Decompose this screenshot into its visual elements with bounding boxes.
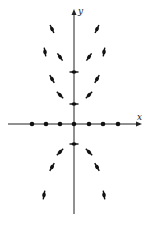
- slope-mark: [70, 142, 79, 146]
- slope-mark: [93, 74, 101, 84]
- x-axis-arrow-icon: [136, 122, 142, 127]
- slope-mark: [93, 162, 101, 172]
- equilibrium-point: [87, 122, 92, 127]
- direction-field-diagram: [0, 0, 151, 226]
- slope-mark: [85, 148, 94, 157]
- slope-mark: [48, 162, 56, 172]
- equilibrium-point: [58, 122, 63, 127]
- slope-mark: [41, 190, 46, 199]
- slope-mark: [101, 190, 106, 199]
- slope-mark: [56, 148, 65, 157]
- y-axis-arrow-icon: [72, 9, 77, 15]
- equilibrium-point: [30, 122, 35, 127]
- slope-mark: [56, 52, 64, 61]
- y-axis: [72, 9, 77, 214]
- slope-mark: [85, 52, 93, 61]
- slope-mark: [93, 24, 100, 34]
- slope-mark: [48, 74, 56, 84]
- equilibrium-point: [101, 122, 106, 127]
- slope-mark: [70, 70, 79, 74]
- slope-mark: [42, 47, 47, 56]
- slope-mark: [56, 91, 65, 100]
- slope-mark: [48, 24, 55, 34]
- slope-mark: [70, 102, 79, 106]
- y-axis-label: y: [78, 7, 83, 16]
- equilibrium-point: [72, 122, 77, 127]
- equilibrium-point: [116, 122, 121, 127]
- equilibrium-point: [44, 122, 49, 127]
- slope-mark: [85, 91, 94, 100]
- x-axis-label: x: [137, 113, 142, 122]
- slope-mark: [101, 47, 106, 56]
